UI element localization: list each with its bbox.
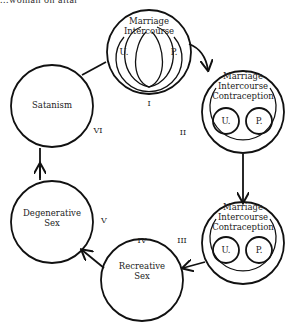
- stage-ii: Marriage Intercourse Contraception U. P.…: [180, 71, 284, 153]
- stage-iii-numeral: III: [177, 236, 186, 245]
- stage-i-p: P.: [171, 47, 178, 57]
- stage-ii-label-2: Intercourse: [218, 81, 268, 91]
- stage-vi-label-1: Satanism: [32, 100, 72, 110]
- stage-ii-p: P.: [256, 116, 263, 126]
- stage-i-numeral: I: [147, 99, 150, 108]
- arrow-iv-to-v: [82, 250, 104, 268]
- stage-ii-numeral: II: [180, 128, 186, 137]
- stage-v-label-1: Degenerative: [23, 208, 81, 218]
- stage-i-loop-u: [125, 27, 163, 87]
- stage-i-label-1: Marriage: [129, 16, 169, 26]
- stage-cycle-diagram: Marriage Intercourse U. P. I Marriage In…: [0, 0, 287, 326]
- stage-iv: Recreative Sex IV: [101, 236, 183, 321]
- stage-vi: Satanism VI: [11, 65, 102, 147]
- stage-ii-u: U.: [221, 116, 230, 126]
- stage-iii: Marriage Intercourse Contraception U. P.…: [177, 202, 284, 284]
- arrow-i-to-ii: [189, 44, 208, 70]
- line-vi-to-i: [82, 62, 106, 75]
- stage-iv-label-1: Recreative: [119, 261, 165, 271]
- connectors: [40, 44, 243, 268]
- stage-vi-numeral: VI: [93, 126, 103, 135]
- arrow-iii-to-iv: [183, 262, 205, 268]
- stage-iii-u: U.: [221, 245, 230, 255]
- stage-v: Degenerative Sex V: [11, 181, 107, 263]
- stage-ii-label-1: Marriage: [223, 71, 263, 81]
- stage-iii-p: P.: [256, 245, 263, 255]
- stage-ii-label-3: Contraception: [212, 91, 274, 101]
- stage-iv-numeral: IV: [138, 236, 147, 245]
- stage-iii-label-2: Intercourse: [218, 212, 268, 222]
- stage-iv-label-2: Sex: [134, 271, 150, 281]
- stage-i-loop-p: [136, 27, 174, 87]
- stage-v-numeral: V: [100, 216, 107, 225]
- stage-iii-label-1: Marriage: [223, 202, 263, 212]
- stage-iii-label-3: Contraception: [212, 222, 274, 232]
- stage-i: Marriage Intercourse U. P. I: [107, 10, 191, 108]
- stage-i-label-2: Intercourse: [124, 26, 174, 36]
- stage-i-u: U.: [119, 47, 128, 57]
- stage-v-label-2: Sex: [44, 218, 60, 228]
